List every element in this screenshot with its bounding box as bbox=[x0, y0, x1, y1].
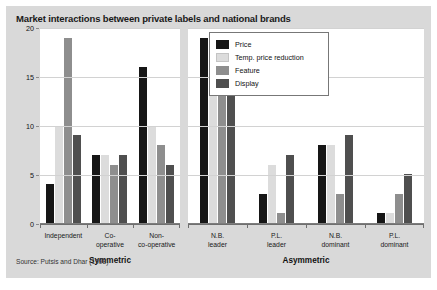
bar bbox=[139, 67, 147, 223]
category-label-line: Co- bbox=[87, 232, 134, 241]
bar bbox=[336, 194, 344, 223]
category-label-line: Independent bbox=[40, 232, 87, 241]
y-tick-label: 20 bbox=[26, 24, 34, 33]
category-label-line: N.B. bbox=[307, 232, 365, 241]
legend-item: Price bbox=[216, 38, 322, 51]
y-tick-mark bbox=[36, 126, 39, 127]
bar bbox=[101, 155, 109, 223]
legend-label: Price bbox=[235, 40, 251, 49]
gridline bbox=[188, 126, 424, 127]
category-label: P.L.leader bbox=[248, 232, 306, 254]
gridline bbox=[40, 77, 180, 78]
bar bbox=[286, 155, 294, 223]
gridline bbox=[188, 28, 424, 29]
category-label-line: dominant bbox=[307, 241, 365, 250]
category-labels-asymmetric: N.B.leaderP.L.leaderN.B.dominantP.L.domi… bbox=[188, 232, 424, 254]
bar bbox=[166, 165, 174, 224]
bar bbox=[92, 155, 100, 223]
category-labels-symmetric: IndependentCo-operativeNon-co-operative bbox=[40, 232, 180, 254]
bar bbox=[227, 77, 235, 223]
y-tick-mark bbox=[36, 28, 39, 29]
category-label-line: N.B. bbox=[189, 232, 247, 241]
gridline bbox=[40, 28, 180, 29]
category-label-line: Non- bbox=[133, 232, 180, 241]
bar bbox=[277, 213, 285, 223]
legend-label: Display bbox=[235, 79, 259, 88]
category-label: Co-operative bbox=[87, 232, 134, 254]
legend-swatch bbox=[216, 53, 229, 62]
bar bbox=[73, 135, 81, 223]
category-label-line: P.L. bbox=[248, 232, 306, 241]
legend-item: Display bbox=[216, 77, 322, 90]
chart-figure: Market interactions between private labe… bbox=[6, 6, 431, 278]
category-label-line: P.L. bbox=[366, 232, 424, 241]
chart-legend: PriceTemp. price reductionFeatureDisplay bbox=[209, 32, 329, 96]
gridline bbox=[40, 126, 180, 127]
panel-title-asymmetric: Asymmetric bbox=[188, 256, 424, 265]
bar bbox=[157, 145, 165, 223]
category-tick bbox=[133, 224, 134, 228]
category-label-line: leader bbox=[248, 241, 306, 250]
chart-title: Market interactions between private labe… bbox=[16, 13, 291, 24]
bar bbox=[119, 155, 127, 223]
bar bbox=[377, 213, 385, 223]
legend-swatch bbox=[216, 79, 229, 88]
bar bbox=[259, 194, 267, 223]
bar bbox=[327, 145, 335, 223]
legend-swatch bbox=[216, 40, 229, 49]
category-label: P.L.dominant bbox=[366, 232, 424, 254]
legend-label: Temp. price reduction bbox=[235, 53, 304, 62]
category-label-line: dominant bbox=[366, 241, 424, 250]
y-axis: 05101520 bbox=[16, 28, 39, 226]
bar bbox=[268, 165, 276, 224]
category-tick bbox=[40, 224, 41, 228]
legend-item: Feature bbox=[216, 64, 322, 77]
axis-line bbox=[40, 224, 180, 225]
legend-label: Feature bbox=[235, 66, 260, 75]
category-tick bbox=[247, 224, 248, 228]
category-axis-symmetric bbox=[40, 224, 180, 232]
category-label-line: operative bbox=[87, 241, 134, 250]
y-tick-mark bbox=[36, 77, 39, 78]
category-label: Non-co-operative bbox=[133, 232, 180, 254]
bar bbox=[404, 174, 412, 223]
category-tick bbox=[179, 224, 180, 228]
plot-panel-symmetric bbox=[40, 28, 180, 224]
y-tick-label: 0 bbox=[30, 220, 34, 229]
bar bbox=[110, 165, 118, 224]
bar bbox=[200, 38, 208, 223]
y-tick-label: 15 bbox=[26, 73, 34, 82]
gridline bbox=[188, 175, 424, 176]
gridline bbox=[40, 175, 180, 176]
y-tick-label: 10 bbox=[26, 122, 34, 131]
bar bbox=[64, 38, 72, 223]
category-label-line: leader bbox=[189, 241, 247, 250]
category-label: N.B.dominant bbox=[307, 232, 365, 254]
bar bbox=[386, 213, 394, 223]
category-label: N.B.leader bbox=[189, 232, 247, 254]
y-tick-mark bbox=[36, 175, 39, 176]
source-note: Source: Putsis and Dhar (1998) bbox=[16, 258, 108, 265]
category-label: Independent bbox=[40, 232, 87, 254]
bar bbox=[345, 135, 353, 223]
category-tick bbox=[87, 224, 88, 228]
legend-swatch bbox=[216, 66, 229, 75]
bar bbox=[46, 184, 54, 223]
category-tick bbox=[188, 224, 189, 228]
category-axis-asymmetric bbox=[188, 224, 424, 232]
category-tick bbox=[365, 224, 366, 228]
y-tick-mark bbox=[36, 224, 39, 225]
bar bbox=[318, 145, 326, 223]
bar bbox=[395, 194, 403, 223]
category-label-line: co-operative bbox=[133, 241, 180, 250]
legend-item: Temp. price reduction bbox=[216, 51, 322, 64]
category-tick bbox=[423, 224, 424, 228]
y-tick-label: 5 bbox=[30, 171, 34, 180]
category-tick bbox=[306, 224, 307, 228]
